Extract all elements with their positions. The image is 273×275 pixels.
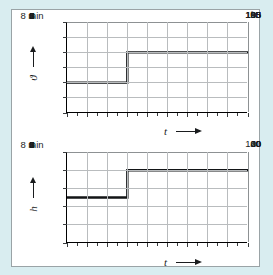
x-axis-symbol-time: t <box>164 125 167 137</box>
gridline-vertical <box>87 152 88 242</box>
figure-panel: ϑ t 859095100105°C115012345678 min9 h <box>11 9 260 267</box>
x-axis-minor-tick <box>97 113 98 116</box>
x-axis-minor-tick <box>97 243 98 246</box>
gridline-vertical <box>147 22 148 112</box>
x-axis-minor-tick <box>217 113 218 116</box>
gridline-horizontal <box>67 170 247 171</box>
x-axis-label-group-temperature: t <box>164 125 208 137</box>
y-axis-label-group-level: h <box>26 177 40 221</box>
x-axis-label-group-level: t <box>164 256 208 268</box>
gridline-vertical <box>127 152 128 242</box>
y-axis-tick-label: 100 <box>235 139 261 149</box>
plot-area-temperature <box>66 22 247 113</box>
step-curve-level <box>67 152 247 242</box>
x-axis-minor-tick <box>237 113 238 116</box>
x-axis-tick <box>127 243 128 247</box>
x-axis-arrow-icon <box>195 128 202 134</box>
chart-temperature: ϑ t 859095100105°C115012345678 min9 <box>12 10 261 139</box>
gridline-vertical <box>248 152 249 242</box>
x-axis-tick <box>227 243 228 247</box>
gridline-horizontal <box>67 97 247 98</box>
x-axis-tick <box>87 113 88 117</box>
gridline-horizontal <box>67 224 247 225</box>
gridline-vertical <box>248 22 249 112</box>
y-axis-tick <box>63 52 67 53</box>
gridline-horizontal <box>67 82 247 83</box>
gridline-vertical <box>87 22 88 112</box>
y-axis-tick <box>63 37 67 38</box>
y-axis-tick <box>63 67 67 68</box>
gridline-horizontal <box>67 37 247 38</box>
chart-level: h t 0204060%100012345678 min9 <box>12 139 261 268</box>
gridline-vertical <box>147 152 148 242</box>
x-axis-minor-tick <box>197 113 198 116</box>
y-axis-tick <box>63 152 67 153</box>
gridline-vertical <box>227 22 228 112</box>
x-axis-minor-tick <box>137 243 138 246</box>
y-axis-tick <box>63 206 67 207</box>
x-axis-tick-label: 9 <box>12 139 52 150</box>
gridline-vertical <box>187 152 188 242</box>
gridline-horizontal <box>67 52 247 53</box>
y-axis-tick <box>63 170 67 171</box>
x-axis-tick <box>107 113 108 117</box>
x-axis-minor-tick <box>77 113 78 116</box>
x-axis-minor-tick <box>217 243 218 246</box>
x-axis-tick <box>87 243 88 247</box>
x-axis-tick <box>248 113 249 117</box>
x-axis-minor-tick <box>177 243 178 246</box>
x-axis-arrow-icon <box>195 259 202 265</box>
x-axis-tick <box>147 113 148 117</box>
y-axis-tick-label: 115 <box>235 10 261 20</box>
y-axis-symbol-level: h <box>27 202 39 216</box>
gridline-vertical <box>127 22 128 112</box>
gridline-vertical <box>167 22 168 112</box>
x-axis-minor-tick <box>137 113 138 116</box>
x-axis-tick <box>167 113 168 117</box>
gridline-vertical <box>227 152 228 242</box>
y-axis-tick <box>63 97 67 98</box>
x-axis-minor-tick <box>117 243 118 246</box>
y-axis-symbol-temperature: ϑ <box>27 71 39 85</box>
x-axis-tick <box>67 243 68 247</box>
y-axis-tick <box>63 82 67 83</box>
x-axis-minor-tick <box>117 113 118 116</box>
x-axis-minor-tick <box>177 113 178 116</box>
gridline-horizontal <box>67 188 247 189</box>
y-axis-tick <box>63 22 67 23</box>
gridline-vertical <box>207 152 208 242</box>
y-axis-tick <box>63 188 67 189</box>
gridline-horizontal <box>67 67 247 68</box>
gridline-horizontal <box>67 206 247 207</box>
gridline-horizontal <box>67 22 247 23</box>
x-axis-tick <box>127 113 128 117</box>
gridline-vertical <box>207 22 208 112</box>
x-axis-tick <box>147 243 148 247</box>
x-axis-tick <box>187 243 188 247</box>
x-axis-tick <box>248 243 249 247</box>
gridline-vertical <box>167 152 168 242</box>
x-axis-tick <box>207 243 208 247</box>
x-axis-tick <box>167 243 168 247</box>
x-axis-tick <box>67 113 68 117</box>
x-axis-tick <box>227 113 228 117</box>
x-axis-minor-tick <box>197 243 198 246</box>
x-axis-symbol-time: t <box>164 256 167 268</box>
y-axis-label-group-temperature: ϑ <box>26 46 40 90</box>
gridline-horizontal <box>67 152 247 153</box>
x-axis-minor-tick <box>237 243 238 246</box>
x-axis-minor-tick <box>157 243 158 246</box>
x-axis-minor-tick <box>77 243 78 246</box>
gridline-vertical <box>107 22 108 112</box>
x-axis-minor-tick <box>157 113 158 116</box>
x-axis-tick-label: 9 <box>12 10 52 21</box>
x-axis-tick <box>207 113 208 117</box>
gridline-vertical <box>187 22 188 112</box>
x-axis-tick <box>187 113 188 117</box>
x-axis-tick <box>107 243 108 247</box>
y-axis-tick <box>63 224 67 225</box>
gridline-vertical <box>107 152 108 242</box>
plot-area-level <box>66 152 247 243</box>
